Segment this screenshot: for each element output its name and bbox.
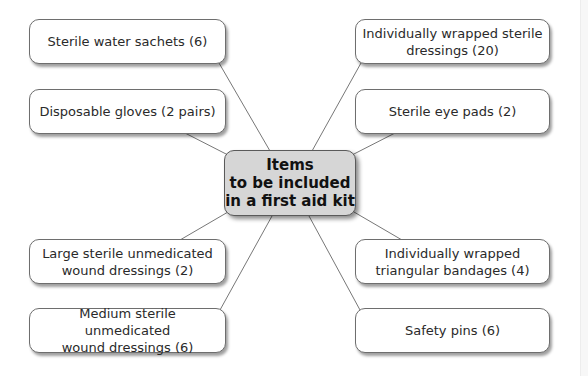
node-medium-wound-dressings: Medium sterile unmedicated wound dressin… [29,308,226,353]
node-label-line: dressings (20) [362,42,542,59]
node-label-line: Individually wrapped sterile [362,25,542,42]
node-label: Safety pins (6) [405,322,500,339]
node-sterile-water-sachets: Sterile water sachets (6) [29,19,226,64]
node-label: Disposable gloves (2 pairs) [39,103,215,120]
node-label-line: Individually wrapped [375,245,529,262]
node-sterile-eye-pads: Sterile eye pads (2) [355,89,550,134]
connector-large-dressings [180,212,228,240]
node-label-line: wound dressings (6) [36,339,219,356]
node-triangular-bandages: Individually wrapped triangular bandages… [355,239,550,284]
node-label-line: Medium sterile unmedicated [36,305,219,339]
node-label-line: wound dressings (2) [42,262,213,279]
node-disposable-gloves: Disposable gloves (2 pairs) [29,89,226,134]
node-label: Sterile water sachets (6) [48,33,208,50]
center-topic-box: Items to be included in a first aid kit [224,150,356,216]
node-large-wound-dressings: Large sterile unmedicated wound dressing… [29,239,226,284]
connector-sterile-water [219,63,270,151]
node-safety-pins: Safety pins (6) [355,308,550,353]
connector-medium-dressings [220,216,272,310]
node-wrapped-sterile-dressings: Individually wrapped sterile dressings (… [355,19,550,64]
center-title-line: Items [225,156,355,174]
connector-gloves [185,133,228,155]
center-title-line: to be included [225,174,355,192]
node-label: Sterile eye pads (2) [389,103,517,120]
node-label-line: triangular bandages (4) [375,262,529,279]
connector-eye-pads [352,133,395,155]
connector-triangular-bandages [354,212,402,240]
node-label-line: Large sterile unmedicated [42,245,213,262]
connector-safety-pins [309,216,360,310]
center-title-line: in a first aid kit [225,192,355,210]
connector-wrapped-dressings [312,63,361,151]
